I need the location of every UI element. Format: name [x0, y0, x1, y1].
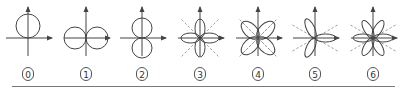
figure-label-3: 3 — [194, 67, 206, 81]
figure-0 — [6, 7, 52, 56]
figure-label-0: 0 — [22, 67, 34, 81]
lobe — [302, 36, 318, 58]
figure-5 — [292, 7, 339, 59]
figure-6 — [350, 7, 397, 57]
lobe — [302, 17, 318, 39]
figure-label-5: 5 — [309, 67, 321, 81]
figure-1 — [64, 7, 110, 56]
figure-label-2: 2 — [136, 67, 148, 81]
figure-4 — [236, 7, 282, 58]
figure-label-6: 6 — [367, 67, 379, 81]
bottom-rule — [12, 86, 395, 87]
figure-label-1: 1 — [80, 67, 92, 81]
figure-3 — [178, 7, 224, 57]
figure-label-4: 4 — [252, 67, 264, 81]
figure-2 — [120, 7, 166, 58]
